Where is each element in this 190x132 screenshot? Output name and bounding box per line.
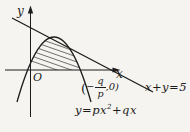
hatch-line bbox=[10, 29, 100, 61]
hatch-line bbox=[10, 34, 100, 66]
x-intercept-label: ( − q p ,0) bbox=[81, 76, 119, 98]
math-diagram: y x O x+y=5 y=px2+qx ( − q p ,0) bbox=[0, 0, 190, 132]
x-intercept-fraction: q p bbox=[95, 76, 105, 98]
line-equation-label: x+y=5 bbox=[145, 82, 187, 94]
x-intercept-open-paren: ( bbox=[81, 82, 86, 95]
hatch-line bbox=[10, 24, 100, 56]
y-axis-label: y bbox=[17, 5, 24, 17]
x-intercept-fraction-numerator: q bbox=[95, 76, 105, 87]
parabola-equation-label: y=px2+qx bbox=[75, 104, 137, 116]
parabola-equation-rhs: +qx bbox=[112, 103, 137, 117]
x-intercept-minus-sign: − bbox=[86, 82, 94, 92]
x-intercept-close: ,0) bbox=[106, 82, 119, 92]
x-intercept-fraction-denominator: p bbox=[95, 87, 105, 99]
origin-label: O bbox=[33, 72, 42, 83]
y-axis-arrow-icon bbox=[28, 6, 33, 14]
hatch-line bbox=[10, 39, 100, 71]
parabola-equation-lhs: y=px bbox=[75, 103, 107, 117]
